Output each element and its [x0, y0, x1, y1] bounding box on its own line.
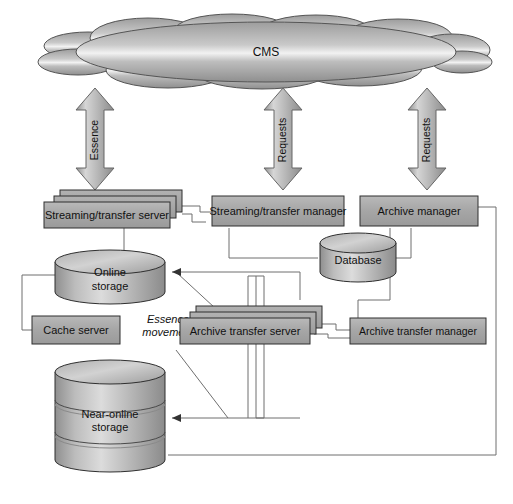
arrow-essence: Essence: [76, 88, 114, 190]
near-online-top: [55, 360, 165, 384]
connector-stm-to-database: [229, 228, 318, 258]
streaming-transfer-manager-label: Streaming/transfer manager: [210, 205, 347, 217]
arrow-requests-right: Requests: [408, 88, 446, 190]
cache-server-label: Cache server: [43, 324, 109, 336]
connector-am-to-database: [395, 228, 411, 258]
connector-sts-to-stm-2: [182, 214, 206, 222]
diagram-canvas: CMS Essence Requests Requests Streaming/…: [0, 0, 513, 504]
arrow-requests-center: Requests: [264, 88, 302, 190]
architecture-diagram: CMS Essence Requests Requests Streaming/…: [0, 0, 513, 504]
vertical-arrows: Essence Requests Requests: [76, 88, 446, 190]
arrow-requests-center-label: Requests: [276, 118, 288, 162]
node-streaming-transfer-manager[interactable]: Streaming/transfer manager: [210, 196, 347, 226]
cloud-label: CMS: [253, 45, 280, 59]
connector-atm-to-ats-2: [314, 334, 350, 338]
node-archive-manager[interactable]: Archive manager: [360, 196, 478, 226]
cms-cloud: CMS: [38, 14, 492, 89]
connector-atm-to-ats: [322, 324, 350, 330]
node-online-storage[interactable]: Online storage: [55, 250, 165, 304]
node-near-online-storage[interactable]: Near-online storage: [55, 360, 165, 472]
streaming-transfer-server-label: Streaming/transfer server: [45, 209, 169, 221]
node-database[interactable]: Database: [320, 233, 396, 282]
near-online-label-1: Near-online: [82, 408, 139, 420]
node-cache-server[interactable]: Cache server: [32, 316, 120, 344]
node-streaming-transfer-server[interactable]: Streaming/transfer server: [44, 190, 182, 228]
arrowhead-online-storage: [172, 268, 181, 276]
online-storage-label-1: Online: [94, 266, 126, 278]
essence-diagonal-lower: [176, 350, 228, 418]
database-top: [320, 233, 396, 253]
archive-transfer-server-label: Archive transfer server: [190, 325, 301, 337]
node-archive-transfer-manager[interactable]: Archive transfer manager: [350, 318, 486, 344]
arrowhead-near-online: [172, 414, 181, 422]
online-storage-label-2: storage: [92, 280, 129, 292]
node-archive-transfer-server[interactable]: Archive transfer server: [180, 306, 322, 344]
near-online-label-2: storage: [92, 421, 129, 433]
archive-transfer-manager-label: Archive transfer manager: [359, 325, 477, 337]
database-label: Database: [334, 254, 381, 266]
archive-manager-label: Archive manager: [377, 205, 460, 217]
arrow-essence-label: Essence: [88, 120, 100, 160]
arrow-requests-right-label: Requests: [420, 118, 432, 162]
